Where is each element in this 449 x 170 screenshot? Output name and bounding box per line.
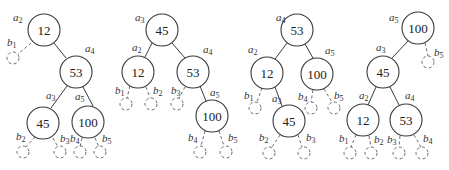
node-value: 53 [70,65,83,80]
tree-2: 45 a3 12 a2 53 a4 100 a5 b1 b2 b3 b4 b5 [115,11,238,158]
leaf-label: b4 [423,132,433,146]
node-label: a4 [203,43,213,57]
null-leaf [171,98,183,110]
leaf-label: b5 [228,131,238,145]
null-leaf [54,146,66,158]
null-leaf [94,146,106,158]
node-value: 45 [377,65,390,80]
node-value: 100 [78,115,98,130]
leaf-label: b1 [7,36,17,50]
leaf-label: b2 [153,84,163,98]
null-leaf [220,146,232,158]
null-leaf [74,146,86,158]
node-value: 53 [400,113,413,128]
null-leaf [365,147,377,159]
node-value: 12 [132,65,145,80]
null-leaf [393,147,405,159]
null-leaf [298,147,310,159]
tree-diagram: 12 a2 53 a4 45 a3 100 a5 b1 b2 b3 b4 b5 … [0,0,449,170]
null-leaf [17,146,29,158]
null-leaf [416,147,428,159]
leaf-label: b1 [339,132,349,146]
leaf-label: b3 [60,132,70,146]
node-label: a5 [75,90,85,104]
leaf-label: b3 [171,84,181,98]
node-value: 12 [357,113,370,128]
tree-3: 53 a4 12 a2 100 a5 45 a3 b1 b2 b3 b4 b5 [244,11,344,159]
node-value: 12 [261,66,274,81]
node-value: 53 [187,65,200,80]
node-label: a2 [359,89,369,103]
null-leaf [120,98,132,110]
leaf-label: b4 [188,131,198,145]
tree-4: 100 a5 45 a3 12 a2 53 a4 b5 b1 b2 b3 b4 [339,11,444,159]
leaf-label: b5 [434,46,444,60]
leaf-label: b5 [102,132,112,146]
node-label: a2 [132,41,142,55]
node-value: 12 [38,23,51,38]
node-label: a5 [325,44,335,58]
leaf-label: b2 [374,133,384,147]
node-label: a3 [376,41,386,55]
leaf-label: b2 [16,130,26,144]
node-value: 100 [202,109,222,124]
null-leaf [194,146,206,158]
tree-1: 12 a2 53 a4 45 a3 100 a5 b1 b2 b3 b4 b5 [7,11,112,158]
null-leaf [145,98,157,110]
node-label: a2 [13,11,23,25]
node-value: 45 [37,116,50,131]
null-leaf [422,56,434,68]
null-leaf [7,52,19,64]
node-value: 53 [291,23,304,38]
node-value: 45 [156,23,169,38]
node-label: a4 [276,11,286,25]
node-label: a2 [248,43,258,57]
null-leaf [328,102,340,114]
node-label: a3 [46,89,56,103]
node-label: a5 [210,86,220,100]
null-leaf [249,102,261,114]
node-label: a5 [389,11,399,25]
null-leaf [344,147,356,159]
node-label: a3 [135,11,145,25]
leaf-label: b3 [306,131,316,145]
node-value: 100 [408,21,428,36]
leaf-label: b4 [298,90,308,104]
node-value: 45 [283,114,296,129]
leaf-label: b2 [259,131,269,145]
node-value: 100 [307,67,327,82]
leaf-label: b3 [387,133,397,147]
leaf-label: b5 [334,89,344,103]
leaf-label: b1 [115,84,125,98]
null-leaf [263,147,275,159]
leaf-label: b1 [244,89,254,103]
node-label: a4 [405,89,415,103]
node-label: a3 [272,92,282,106]
node-label: a4 [85,42,95,56]
